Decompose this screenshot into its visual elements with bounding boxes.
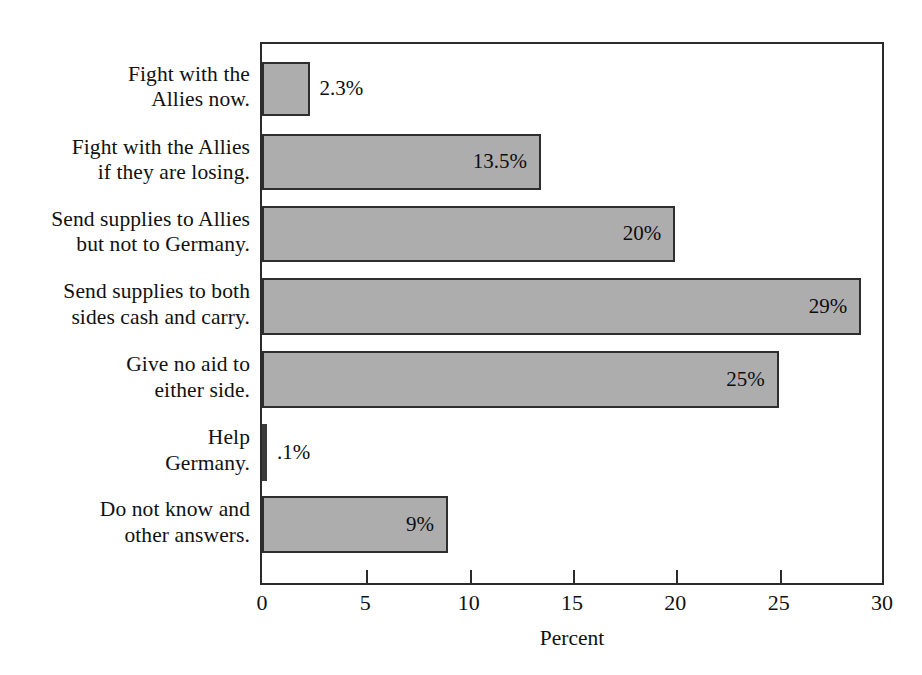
category-label-line: Do not know and — [0, 497, 250, 523]
category-label-line: either side. — [0, 378, 250, 404]
category-label: Send supplies to Alliesbut not to German… — [0, 207, 250, 258]
x-axis-tick-label: 5 — [360, 592, 371, 614]
category-label-line: but not to Germany. — [0, 232, 250, 258]
x-axis-title: Percent — [260, 626, 884, 651]
plot-area: 2.3%13.5%20%29%25%.1%9% — [260, 42, 884, 585]
bar-value-label: 25% — [726, 369, 765, 390]
x-axis-tick — [573, 570, 575, 583]
bar-value-label: 13.5% — [473, 151, 527, 172]
bar-value-label: 2.3% — [320, 78, 364, 99]
bar — [262, 62, 310, 116]
category-label-line: Fight with the — [0, 62, 250, 88]
category-label-line: if they are losing. — [0, 160, 250, 186]
bar-value-label: .1% — [277, 442, 310, 463]
category-label: Give no aid toeither side. — [0, 352, 250, 403]
category-label-group: Fight with theAllies now.Fight with the … — [0, 40, 250, 585]
category-label-line: Help — [0, 425, 250, 451]
category-label-line: Germany. — [0, 451, 250, 477]
category-label-line: Fight with the Allies — [0, 135, 250, 161]
bar — [262, 424, 267, 481]
x-axis-tick — [780, 570, 782, 583]
bar-group: 2.3%13.5%20%29%25%.1%9% — [262, 44, 882, 583]
x-axis-tick-label: 0 — [257, 592, 268, 614]
chart-page: Fight with theAllies now.Fight with the … — [0, 0, 922, 675]
bar-value-label: 9% — [406, 514, 434, 535]
bar — [262, 351, 779, 408]
x-axis-tick-label: 30 — [871, 592, 893, 614]
category-label-line: other answers. — [0, 523, 250, 549]
category-label: HelpGermany. — [0, 425, 250, 476]
category-label-line: sides cash and carry. — [0, 305, 250, 331]
bar-value-label: 20% — [623, 223, 662, 244]
x-axis-tick-label: 25 — [768, 592, 790, 614]
category-label: Do not know andother answers. — [0, 497, 250, 548]
category-label-line: Allies now. — [0, 87, 250, 113]
category-label: Fight with theAllies now. — [0, 62, 250, 113]
x-axis-tick-label: 15 — [561, 592, 583, 614]
category-label-line: Give no aid to — [0, 352, 250, 378]
x-axis-tick — [676, 570, 678, 583]
x-axis-tick-label: 20 — [664, 592, 686, 614]
category-label: Send supplies to bothsides cash and carr… — [0, 279, 250, 330]
category-label: Fight with the Alliesif they are losing. — [0, 135, 250, 186]
category-label-line: Send supplies to Allies — [0, 207, 250, 233]
x-axis-tick-label: 10 — [458, 592, 480, 614]
bar — [262, 278, 861, 335]
bar — [262, 206, 675, 262]
x-axis-tick — [470, 570, 472, 583]
category-label-line: Send supplies to both — [0, 279, 250, 305]
bar-value-label: 29% — [809, 296, 848, 317]
x-axis-tick — [366, 570, 368, 583]
